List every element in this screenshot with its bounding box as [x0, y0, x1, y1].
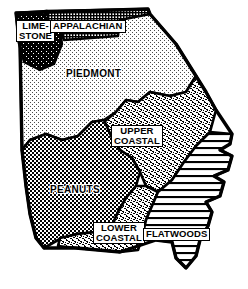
- region-label-piedmont: PIEDMONT: [66, 68, 121, 79]
- region-label-peanuts-line1: PEANUTS: [50, 184, 100, 195]
- region-label-flatwoods: FLATWOODS: [143, 228, 210, 241]
- region-label-upper-coastal-line2: COASTAL: [114, 136, 160, 146]
- region-label-peanuts: PEANUTS: [50, 184, 100, 195]
- region-map: LIME- STONE APPALACHIAN PIEDMONT UPPER C…: [0, 0, 248, 289]
- region-label-appalachian-line1: APPALACHIAN: [53, 21, 123, 31]
- region-label-lower-coastal: LOWER COASTAL: [93, 222, 145, 244]
- region-label-flatwoods-line1: FLATWOODS: [146, 229, 207, 239]
- region-label-lower-coastal-line2: COASTAL: [96, 233, 142, 243]
- region-label-upper-coastal: UPPER COASTAL: [111, 125, 163, 147]
- region-label-appalachian: APPALACHIAN: [50, 20, 126, 33]
- region-label-piedmont-line1: PIEDMONT: [66, 68, 121, 79]
- region-label-limestone-line2: STONE: [19, 31, 52, 41]
